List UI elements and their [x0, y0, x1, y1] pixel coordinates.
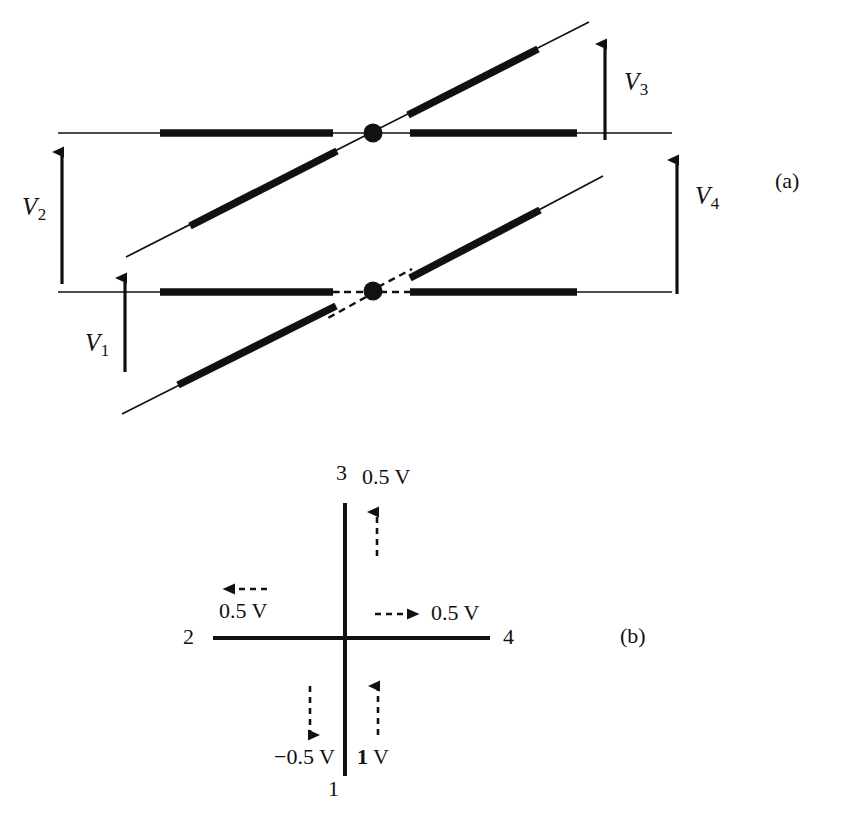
voltage-label-v2-sub: 2: [37, 205, 46, 224]
panel-label-b: (b): [620, 625, 646, 647]
port-label-1: 1: [328, 778, 339, 800]
voltage-label-v4-base: V: [695, 182, 710, 209]
voltage-text-top: 0.5 V: [362, 466, 411, 488]
voltage-label-v4: V4: [695, 183, 719, 212]
figure-canvas: [0, 0, 854, 818]
upper-diagonal-thick-upper: [408, 49, 538, 115]
voltage-text-bottom-right: 1 V: [357, 746, 389, 768]
voltage-label-v4-sub: 4: [710, 194, 719, 213]
voltage-label-v2: V2: [22, 194, 46, 223]
panel-a-upper-crossing: [58, 22, 672, 257]
port-label-3: 3: [336, 462, 347, 484]
voltage-text-bottom-left: −0.5 V: [274, 746, 335, 768]
panel-a-lower-crossing: [58, 176, 672, 414]
upper-crossing-node: [364, 124, 383, 143]
voltage-text-left: 0.5 V: [219, 600, 268, 622]
voltage-label-v3-sub: 3: [639, 80, 648, 99]
voltage-label-v2-base: V: [22, 193, 37, 220]
lower-crossing-node: [364, 282, 383, 301]
lower-node-dash-upper-right: [378, 269, 412, 287]
port-label-4: 4: [503, 626, 514, 648]
voltage-label-v3-base: V: [624, 68, 639, 95]
panel-b-voltage-arrows: [224, 512, 418, 735]
voltage-text-right: 0.5 V: [431, 602, 480, 624]
voltage-text-bottom-right-unit: V: [368, 744, 389, 769]
panel-a-voltage-arrows: [62, 44, 677, 372]
lower-diagonal-thick-upper: [410, 210, 540, 278]
voltage-label-v3: V3: [624, 69, 648, 98]
voltage-label-v1-sub: 1: [100, 341, 109, 360]
port-label-2: 2: [183, 626, 194, 648]
lower-diagonal-thick-lower: [178, 306, 336, 385]
voltage-label-v1: V1: [85, 330, 109, 359]
voltage-label-v1-base: V: [85, 329, 100, 356]
panel-b-cross-junction: [213, 503, 490, 776]
panel-label-a: (a): [775, 170, 799, 192]
figure-root: V2 V1 V3 V4 (a) 3 0.5 V 0.5 V 0.5 V 2 4 …: [0, 0, 854, 818]
upper-diagonal-thick-lower: [190, 151, 337, 226]
voltage-text-bottom-right-value: 1: [357, 744, 368, 769]
